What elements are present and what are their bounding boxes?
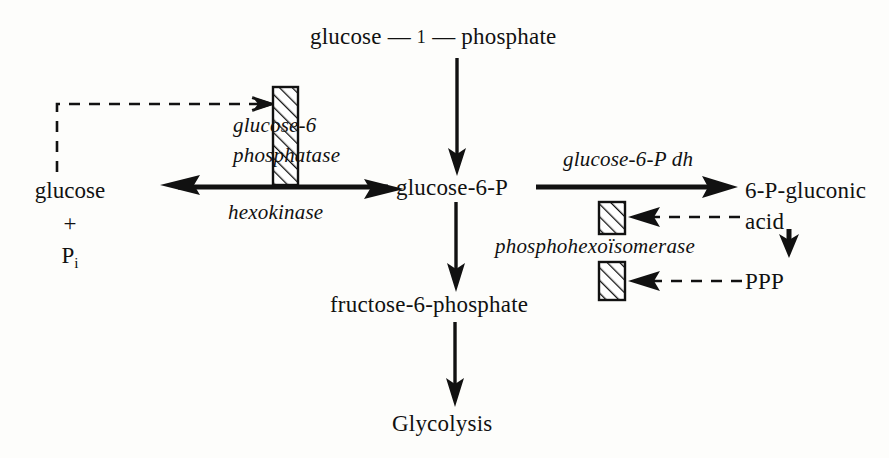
edge-g6p-to-f6p — [447, 202, 465, 292]
node-ppp: PPP — [745, 269, 784, 295]
regulation-bar-phosphohexoisomerase-lower — [599, 262, 625, 300]
node-pi: Pi — [10, 240, 130, 273]
node-6-p-gluconic-acid-line2: acid — [745, 206, 866, 237]
node-glucose-1-phosphate: glucose — 1 — phosphate — [310, 24, 556, 50]
node-glycolysis: Glycolysis — [392, 411, 492, 437]
node-plus-sign: + — [10, 208, 130, 241]
enzyme-glucose-6-p-dh-label: glucose-6-P dh — [563, 147, 693, 171]
pathway-diagram: glucose — 1 — phosphate glucose + Pi glu… — [0, 0, 889, 458]
edge-g1p-to-g6p — [448, 58, 466, 176]
enzyme-phosphohexoisomerase: phosphohexoïsomerase — [495, 235, 695, 258]
enzyme-hexokinase-label: hexokinase — [228, 200, 323, 224]
enzyme-glucose-6-p-dh: glucose-6-P dh — [563, 148, 693, 171]
node-glucose-1-phosphate-numeral: 1 — [417, 27, 426, 47]
node-glycolysis-label: Glycolysis — [392, 411, 492, 436]
node-6-p-gluconic-acid-line1: 6-P-gluconic — [745, 175, 866, 206]
node-glucose: glucose — [10, 175, 130, 208]
node-pi-symbol: P — [61, 243, 74, 268]
enzyme-phosphohexoisomerase-label: phosphohexoïsomerase — [495, 234, 695, 258]
enzyme-glucose-6-phosphatase: glucose-6 phosphatase — [233, 110, 340, 171]
node-glucose-6-p-label: glucose-6-P — [396, 175, 508, 200]
edge-g6p-to-gluconic-acid — [536, 176, 738, 198]
edge-acid-feedback-dashed — [628, 207, 740, 227]
enzyme-glucose-6-phosphatase-line1: glucose-6 — [233, 110, 340, 140]
node-fructose-6-phosphate-label: fructose-6-phosphate — [330, 292, 528, 317]
edge-f6p-to-glycolysis — [446, 322, 464, 407]
node-glucose-1-phosphate-dash-2: — — [432, 24, 455, 49]
node-glucose-1-phosphate-right: phosphate — [461, 24, 556, 49]
edge-ppp-feedback-dashed — [628, 271, 742, 291]
regulation-bar-phosphohexoisomerase-upper — [599, 202, 625, 234]
node-pi-subscript: i — [74, 254, 78, 271]
node-6-p-gluconic-acid: 6-P-gluconic acid — [745, 175, 866, 237]
enzyme-hexokinase: hexokinase — [228, 201, 323, 224]
node-glucose-1-phosphate-dash-1: — — [388, 24, 411, 49]
node-ppp-label: PPP — [745, 269, 784, 294]
node-fructose-6-phosphate: fructose-6-phosphate — [330, 292, 528, 318]
node-glucose-6-p: glucose-6-P — [396, 175, 508, 201]
node-glucose-plus-pi: glucose + Pi — [10, 175, 130, 274]
enzyme-glucose-6-phosphatase-line2: phosphatase — [233, 140, 340, 170]
node-glucose-1-phosphate-left: glucose — [310, 24, 382, 49]
